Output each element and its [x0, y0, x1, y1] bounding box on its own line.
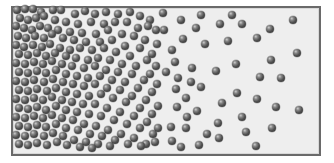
particle	[49, 75, 57, 83]
particle	[188, 64, 196, 72]
particle	[62, 106, 70, 114]
particle	[97, 112, 105, 120]
particle	[52, 66, 60, 74]
particle	[289, 16, 297, 24]
particle	[48, 30, 56, 38]
particle	[216, 20, 224, 28]
particle	[183, 113, 191, 121]
particle	[187, 78, 195, 86]
particle	[62, 52, 70, 60]
particle	[143, 118, 151, 126]
particle	[151, 138, 159, 146]
particle	[193, 107, 201, 115]
particle	[136, 104, 144, 112]
particle	[57, 6, 65, 14]
particle	[80, 82, 88, 90]
particle	[86, 130, 94, 138]
particle	[24, 141, 32, 149]
particle	[201, 40, 209, 48]
particle	[66, 28, 74, 36]
particle	[71, 10, 79, 18]
particle	[73, 72, 81, 80]
particle	[33, 67, 41, 75]
particle	[252, 142, 260, 150]
particle	[21, 78, 29, 86]
particle	[48, 111, 56, 119]
particle	[106, 56, 114, 64]
particle	[39, 114, 47, 122]
particle	[46, 40, 54, 48]
particle	[74, 20, 82, 28]
particle	[144, 22, 152, 30]
particle	[62, 70, 70, 78]
particle	[238, 20, 246, 28]
particle	[62, 124, 70, 132]
particle	[43, 141, 51, 149]
particle	[39, 60, 47, 68]
particle	[203, 130, 211, 138]
particle	[30, 76, 38, 84]
particle	[94, 54, 102, 62]
diffusion-diagram	[0, 0, 334, 163]
particle	[272, 103, 280, 111]
particle	[174, 74, 182, 82]
particle	[14, 32, 22, 40]
particle	[277, 74, 285, 82]
particle	[136, 44, 144, 52]
particle	[108, 76, 116, 84]
particle	[79, 100, 87, 108]
particle	[12, 41, 20, 49]
particle	[141, 36, 149, 44]
particle	[121, 42, 129, 50]
particle	[62, 88, 70, 96]
particle	[30, 58, 38, 66]
particle	[136, 12, 144, 20]
particle	[51, 49, 59, 57]
particle	[96, 72, 104, 80]
particle	[192, 24, 200, 32]
particle	[33, 85, 41, 93]
particle	[168, 137, 176, 145]
particle	[63, 141, 71, 149]
particle	[15, 86, 23, 94]
particle	[36, 22, 44, 30]
particle	[159, 9, 167, 17]
particle	[195, 141, 203, 149]
particle	[81, 7, 89, 15]
particle	[114, 10, 122, 18]
particle	[109, 94, 117, 102]
particle	[154, 102, 162, 110]
particle	[21, 60, 29, 68]
particle	[87, 18, 95, 26]
particle	[12, 77, 20, 85]
particle	[12, 113, 20, 121]
particle	[68, 62, 76, 70]
particle	[118, 30, 126, 38]
particle	[69, 80, 77, 88]
particle	[76, 44, 84, 52]
particle	[88, 144, 96, 152]
particle	[91, 62, 99, 70]
particle	[12, 59, 20, 67]
particle	[72, 54, 80, 62]
particle	[177, 143, 185, 151]
particle	[126, 52, 134, 60]
particle	[12, 131, 20, 139]
particle	[33, 49, 41, 57]
particle	[232, 60, 240, 68]
particle	[116, 86, 124, 94]
particle	[123, 120, 131, 128]
particle	[228, 11, 236, 19]
particle	[31, 32, 39, 40]
particle	[29, 5, 37, 13]
particle	[59, 34, 67, 42]
particle	[130, 112, 138, 120]
particle	[116, 108, 124, 116]
particle	[214, 119, 222, 127]
particle	[91, 80, 99, 88]
particle	[53, 138, 61, 146]
particle	[197, 83, 205, 91]
particle	[293, 49, 301, 57]
particle	[30, 94, 38, 102]
particle	[15, 122, 23, 130]
